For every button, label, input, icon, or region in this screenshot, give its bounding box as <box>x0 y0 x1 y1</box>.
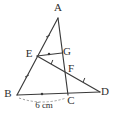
tick-marks-layer <box>25 35 84 82</box>
tick-EF <box>51 60 52 63</box>
vertex-label-e: E <box>26 47 33 59</box>
vertex-label-f: F <box>68 62 74 74</box>
dot-EG-midpoint <box>48 53 51 56</box>
vertex-label-b: B <box>4 87 11 99</box>
measure-bc-label: 6 cm <box>35 100 53 110</box>
vertex-label-a: A <box>54 1 62 13</box>
tick-FD <box>83 78 84 81</box>
vertex-label-d: D <box>101 85 109 97</box>
dot-BC-midpoint <box>41 93 44 96</box>
vertex-label-g: G <box>63 45 71 57</box>
geometry-figure: 6 cm ABCDEFG <box>0 0 115 113</box>
figure-canvas: 6 cm ABCDEFG <box>0 0 115 113</box>
measurement-layer: 6 cm <box>19 98 66 110</box>
segment-BD <box>17 92 100 95</box>
vertex-label-c: C <box>67 94 74 106</box>
